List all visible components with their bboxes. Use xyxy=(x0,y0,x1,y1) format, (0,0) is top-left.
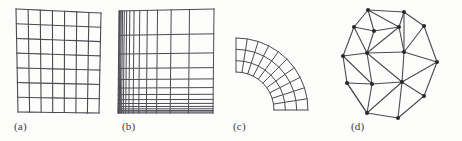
caption-b: (b) xyxy=(122,120,135,132)
curvilinear-grid-lines xyxy=(236,38,308,110)
mesh-types-figure: (a) (b) (c) (d) xyxy=(0,0,462,141)
caption-a: (a) xyxy=(14,120,27,132)
caption-d: (d) xyxy=(351,120,364,132)
caption-c: (c) xyxy=(233,120,246,132)
uniform-grid-lines xyxy=(16,9,101,113)
graded-grid-lines xyxy=(118,9,214,113)
